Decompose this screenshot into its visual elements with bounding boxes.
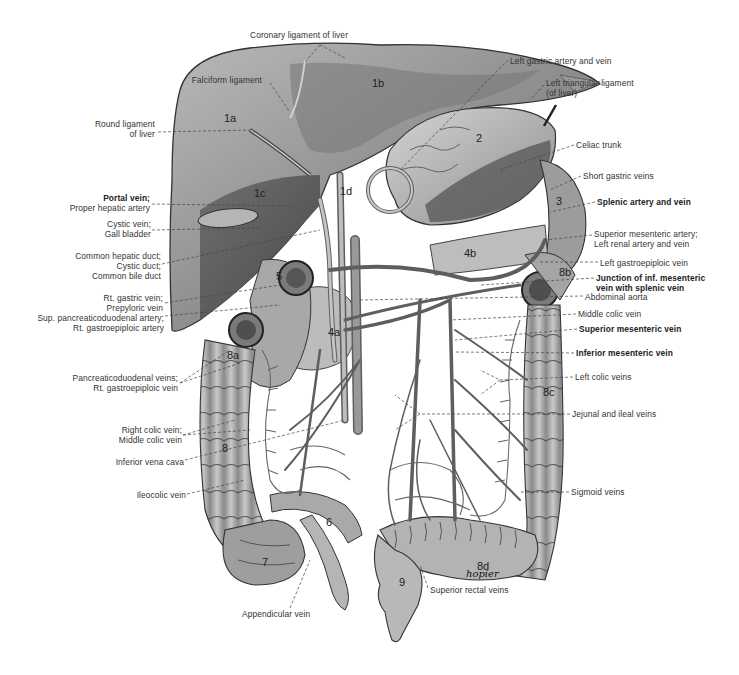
label-line: Short gastric veins bbox=[583, 171, 654, 181]
label-right-colic-vein: Right colic vein; Middle colic vein bbox=[119, 425, 182, 445]
anatomy-figure: 1a 1b 1c 1d 2 3 4a 4b 5 6 7 8 8a 8b 8c 8… bbox=[0, 0, 739, 675]
label-line: Superior mesenteric artery; bbox=[594, 229, 698, 239]
organ-number-8c: 8c bbox=[543, 386, 555, 398]
illustration-canvas bbox=[0, 0, 739, 675]
organ-number-8a: 8a bbox=[227, 349, 239, 361]
label-line: Gall bladder bbox=[105, 229, 151, 239]
label-line: Left triangular ligament bbox=[546, 78, 634, 88]
label-jejunal-ileal-veins: Jejunal and ileal veins bbox=[572, 409, 656, 419]
label-line: Sup. pancreaticoduodenal artery; bbox=[37, 313, 164, 323]
label-line: Jejunal and ileal veins bbox=[572, 409, 656, 419]
label-line: Splenic artery and vein bbox=[597, 197, 691, 207]
label-line: Abdominal aorta bbox=[585, 292, 648, 302]
label-line: (of liver) bbox=[546, 88, 634, 98]
label-pancreaticoduodenal-veins: Pancreaticoduodenal veins; Rt. gastroepi… bbox=[73, 373, 179, 393]
organ-number-1b: 1b bbox=[372, 77, 384, 89]
label-cystic-vein: Cystic vein; Gall bladder bbox=[105, 219, 151, 239]
label-line: Inferior mesenteric vein bbox=[576, 348, 673, 358]
label-sup-pancreaticoduodenal-artery: Sup. pancreaticoduodenal artery; Rt. gas… bbox=[37, 313, 164, 333]
label-line: Left gastroepiploic vein bbox=[600, 258, 688, 268]
label-celiac-trunk: Celiac trunk bbox=[576, 140, 621, 150]
label-line: Proper hepatic artery bbox=[70, 203, 150, 213]
label-portal-vein: Portal vein; Proper hepatic artery bbox=[70, 193, 150, 213]
label-line: Inferior vena cava bbox=[116, 457, 184, 467]
organ-number-7: 7 bbox=[262, 556, 268, 568]
label-line: of liver bbox=[95, 129, 155, 139]
label-line: Round ligament bbox=[95, 119, 155, 129]
organ-number-6: 6 bbox=[326, 516, 332, 528]
label-junction-inf-mesenteric: Junction of inf. mesenteric vein with sp… bbox=[596, 273, 705, 293]
label-superior-mesenteric-vein: Superior mesenteric vein bbox=[579, 324, 681, 334]
organ-number-1c: 1c bbox=[254, 187, 266, 199]
label-line: Pancreaticoduodenal veins; bbox=[73, 373, 179, 383]
organ-number-1a: 1a bbox=[224, 112, 236, 124]
label-line: Left colic veins bbox=[575, 372, 632, 382]
label-inferior-mesenteric-vein: Inferior mesenteric vein bbox=[576, 348, 673, 358]
label-line: Cystic duct; bbox=[75, 261, 161, 271]
label-left-gastroepiploic-vein: Left gastroepiploic vein bbox=[600, 258, 688, 268]
organ-number-2: 2 bbox=[476, 132, 482, 144]
label-line: Rt. gastroepiploic artery bbox=[37, 323, 164, 333]
label-line: Right colic vein; bbox=[119, 425, 182, 435]
label-rt-gastric-vein: Rt. gastric vein; Prepyloric vein bbox=[104, 293, 163, 313]
label-line: Junction of inf. mesenteric bbox=[596, 273, 705, 283]
label-coronary-ligament: Coronary ligament of liver bbox=[250, 30, 348, 40]
label-splenic-artery-and-vein: Splenic artery and vein bbox=[597, 197, 691, 207]
organ-number-8: 8 bbox=[222, 442, 228, 454]
label-line: Left renal artery and vein bbox=[594, 239, 698, 249]
label-short-gastric-veins: Short gastric veins bbox=[583, 171, 654, 181]
label-line: Appendicular vein bbox=[242, 609, 310, 619]
label-line: Common bile duct bbox=[75, 271, 161, 281]
label-line: Coronary ligament of liver bbox=[250, 30, 348, 40]
label-line: Superior mesenteric vein bbox=[579, 324, 681, 334]
cecum bbox=[223, 520, 305, 585]
label-line: Ileocolic vein bbox=[137, 490, 186, 500]
label-inferior-vena-cava: Inferior vena cava bbox=[116, 457, 184, 467]
label-abdominal-aorta: Abdominal aorta bbox=[585, 292, 648, 302]
label-line: Rt. gastric vein; bbox=[104, 293, 163, 303]
organ-number-4b: 4b bbox=[464, 247, 476, 259]
label-line: Sigmoid veins bbox=[571, 487, 624, 497]
label-line: Cystic vein; bbox=[105, 219, 151, 229]
label-round-ligament: Round ligament of liver bbox=[95, 119, 155, 139]
organ-number-9: 9 bbox=[399, 576, 405, 588]
label-line: Middle colic vein bbox=[119, 435, 182, 445]
artist-signature: hopier bbox=[466, 568, 499, 579]
label-line: Prepyloric vein bbox=[104, 303, 163, 313]
label-line: Celiac trunk bbox=[576, 140, 621, 150]
label-line: Rt. gastroepiploic vein bbox=[73, 383, 179, 393]
label-ileocolic-vein: Ileocolic vein bbox=[137, 490, 186, 500]
label-line: Middle colic vein bbox=[578, 309, 641, 319]
label-line: Falciform ligament bbox=[192, 75, 262, 85]
organ-number-4a: 4a bbox=[328, 326, 340, 338]
label-appendicular-vein: Appendicular vein bbox=[242, 609, 310, 619]
label-line: Left gastric artery and vein bbox=[510, 56, 612, 66]
label-left-colic-veins: Left colic veins bbox=[575, 372, 632, 382]
organ-number-1d: 1d bbox=[340, 185, 352, 197]
label-left-gastric-artery: Left gastric artery and vein bbox=[510, 56, 612, 66]
organ-number-3: 3 bbox=[556, 195, 562, 207]
label-line: Common hepatic duct; bbox=[75, 251, 161, 261]
label-middle-colic-vein: Middle colic vein bbox=[578, 309, 641, 319]
organ-number-8b: 8b bbox=[559, 266, 571, 278]
organ-number-5: 5 bbox=[276, 270, 282, 282]
label-line: Portal vein; bbox=[70, 193, 150, 203]
label-common-hepatic-duct: Common hepatic duct; Cystic duct; Common… bbox=[75, 251, 161, 281]
label-superior-mesenteric-artery: Superior mesenteric artery; Left renal a… bbox=[594, 229, 698, 249]
label-sigmoid-veins: Sigmoid veins bbox=[571, 487, 624, 497]
label-falciform-ligament: Falciform ligament bbox=[192, 75, 262, 85]
label-superior-rectal-veins: Superior rectal veins bbox=[430, 585, 508, 595]
label-line: Superior rectal veins bbox=[430, 585, 508, 595]
label-left-triangular-ligament: Left triangular ligament (of liver) bbox=[546, 78, 634, 98]
